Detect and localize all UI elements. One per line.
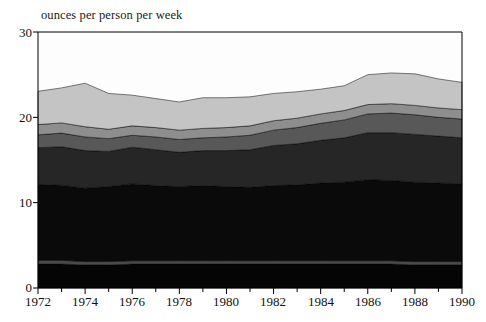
stacked-area-chart: ounces per person per week 30 20 10 0 19… [0, 0, 486, 322]
x-tick-label-1978: 1978 [159, 294, 199, 310]
y-tick-label-20: 20 [6, 110, 32, 126]
x-tick-label-1988: 1988 [395, 294, 435, 310]
y-tick-label-30: 30 [6, 25, 32, 41]
x-tick-label-1984: 1984 [301, 294, 341, 310]
x-tick-label-1976: 1976 [112, 294, 152, 310]
area-band-1 [38, 264, 462, 288]
area-band-3 [38, 180, 462, 262]
x-tick-label-1986: 1986 [348, 294, 388, 310]
x-tick-label-1990: 1990 [442, 294, 482, 310]
y-tick-label-10: 10 [6, 195, 32, 211]
x-tick-label-1974: 1974 [65, 294, 105, 310]
x-tick-label-1980: 1980 [206, 294, 246, 310]
chart-canvas [0, 0, 486, 322]
x-tick-label-1972: 1972 [18, 294, 58, 310]
x-tick-label-1982: 1982 [253, 294, 293, 310]
